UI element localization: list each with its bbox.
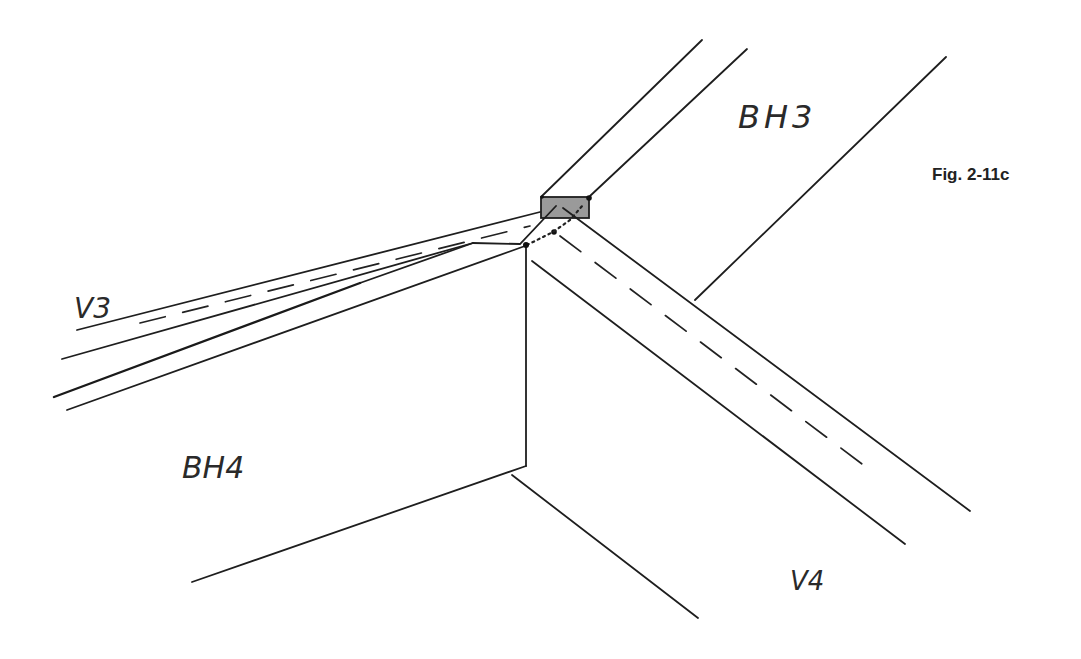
beam-bh3 <box>542 40 946 300</box>
label-bh4: BH4 <box>182 450 244 485</box>
rafter-v4 <box>532 208 970 544</box>
label-v4: V4 <box>790 566 824 596</box>
label-bh3: BH3 <box>738 98 816 136</box>
figure-caption: Fig. 2-11c <box>932 165 1009 185</box>
beam-junction-sketch: BH3 BH4 V3 V4 <box>0 0 1081 659</box>
rafter-v3 <box>54 206 556 410</box>
label-v3: V3 <box>74 292 111 325</box>
